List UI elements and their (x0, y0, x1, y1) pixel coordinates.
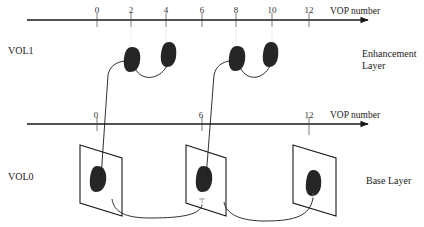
vop-blob-6 (196, 166, 212, 192)
base-axis (27, 117, 368, 135)
tick-label: 4 (164, 5, 169, 15)
vol0-label: VOL0 (8, 171, 34, 183)
vop-blob-10 (263, 42, 279, 67)
base-layer-label: Base Layer (366, 175, 411, 187)
enhancement-axis-title: VOP number (330, 6, 380, 17)
ref-base-0-to-6 (112, 199, 202, 218)
vop-blob-4 (161, 42, 177, 67)
ref-base-6-to-12 (224, 198, 313, 221)
prediction-arrows (101, 61, 313, 221)
vop-blob-2 (124, 47, 140, 72)
ref-0-to-2 (101, 61, 125, 178)
vol1-label: VOL1 (8, 45, 34, 57)
enhancement-layer-label-line1: Enhancement (362, 48, 416, 60)
vop-blob-0 (90, 166, 106, 192)
ref-8-to-10 (241, 66, 270, 77)
tick-label: 0 (94, 110, 99, 120)
tick-label: 2 (129, 5, 134, 15)
vop-blob-8 (229, 46, 245, 71)
tick-label: 6 (200, 5, 205, 15)
enhancement-layer-label-line2: Layer (362, 60, 416, 72)
tick-label: 10 (268, 5, 277, 15)
enhancement-layer-label: Enhancement Layer (362, 48, 416, 72)
enhancement-axis (27, 13, 368, 45)
tick-label: 6 (199, 110, 204, 120)
base-axis-title: VOP number (330, 110, 380, 121)
tick-label: 12 (305, 110, 314, 120)
base-vops (90, 166, 321, 196)
enhancement-vops (124, 42, 279, 72)
tick-label: 8 (234, 5, 239, 15)
ref-2-to-4 (136, 66, 167, 77)
tick-label: 0 (95, 5, 100, 15)
tick-label: 12 (305, 5, 314, 15)
vop-blob-12 (306, 170, 321, 196)
